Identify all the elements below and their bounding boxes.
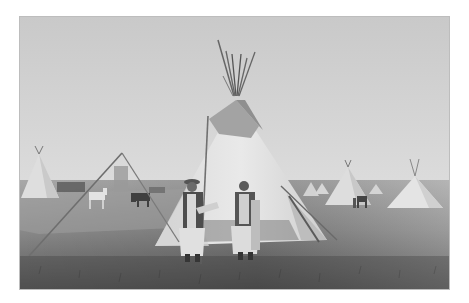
photo-illustration: [19, 16, 450, 290]
tipi-encampment-photo: [19, 16, 450, 290]
grass-foreground: [19, 256, 450, 290]
